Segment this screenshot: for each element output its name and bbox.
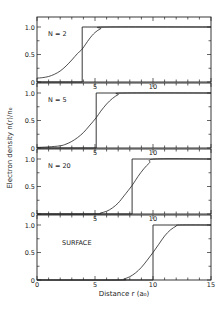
panel-1: 00.51.0510N = 2 bbox=[25, 17, 211, 91]
y-tick-label: 0 bbox=[31, 79, 35, 87]
panel-label: N = 20 bbox=[48, 162, 71, 170]
x-tick-label: 0 bbox=[35, 281, 39, 289]
y-tick-label: 1.0 bbox=[25, 222, 35, 230]
panel-4: 00.51.0051015SURFACE bbox=[25, 215, 215, 289]
x-tick-label: 10 bbox=[149, 281, 157, 289]
panel-2: 00.51.0510N = 5 bbox=[25, 83, 211, 157]
panels-group: 00.51.0510N = 200.51.0510N = 500.51.0510… bbox=[25, 17, 215, 289]
y-tick-label: 0.5 bbox=[25, 117, 35, 125]
x-tick-label: 5 bbox=[93, 281, 97, 289]
step-profile bbox=[37, 225, 211, 280]
y-tick-label: 1.0 bbox=[25, 90, 35, 98]
y-tick-label: 1.0 bbox=[25, 156, 35, 164]
x-axis-label: Distance r (a₀) bbox=[99, 290, 150, 298]
y-tick-label: 0 bbox=[31, 211, 35, 219]
panel-3: 00.51.0510N = 20 bbox=[25, 149, 211, 223]
panel-label: N = 5 bbox=[48, 96, 67, 104]
electron-density-figure: 00.51.0510N = 200.51.0510N = 500.51.0510… bbox=[0, 0, 224, 317]
panel-label: N = 2 bbox=[48, 30, 67, 38]
x-tick-label: 15 bbox=[207, 281, 215, 289]
y-axis-label: Electron density n(r)/n₀ bbox=[6, 107, 14, 188]
panel-label: SURFACE bbox=[62, 239, 92, 247]
y-tick-label: 1.0 bbox=[25, 24, 35, 32]
y-tick-label: 0.5 bbox=[25, 249, 35, 257]
y-tick-label: 0.5 bbox=[25, 183, 35, 191]
y-tick-label: 0 bbox=[31, 145, 35, 153]
density-curve bbox=[37, 225, 211, 280]
y-tick-label: 0.5 bbox=[25, 51, 35, 59]
